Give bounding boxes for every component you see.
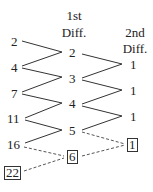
second-diff-header-line2: Diff. [121,42,149,55]
predicted-first-diff-box: 6 [67,150,78,164]
sequence-term-4: 11 [7,112,20,125]
second-diff-header-line1: 2nd [122,26,148,39]
second-diff-3: 1 [130,110,137,123]
first-diff-header-line1: 1st [64,9,84,22]
second-diff-2: 1 [130,84,137,97]
predicted-term-box: 22 [4,166,21,180]
first-diff-1: 2 [69,46,76,59]
sequence-term-1: 2 [11,35,18,48]
sequence-term-5: 16 [7,138,20,151]
first-diff-4: 5 [69,124,76,137]
second-diff-1: 1 [130,58,137,71]
first-diff-2: 3 [69,72,76,85]
first-diff-header-line2: Diff. [60,26,88,39]
predicted-second-diff-box: 1 [127,138,138,152]
sequence-term-3: 7 [11,87,18,100]
first-diff-3: 4 [69,97,76,110]
sequence-term-2: 4 [11,61,18,74]
